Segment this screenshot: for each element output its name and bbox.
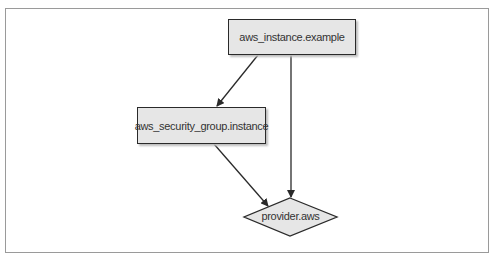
node-aws-security-group-instance: aws_security_group.instance [137, 107, 266, 144]
node-label: aws_instance.example [239, 31, 344, 43]
node-aws-instance-example: aws_instance.example [228, 19, 356, 55]
node-label: provider.aws [261, 210, 319, 222]
node-label: aws_security_group.instance [135, 120, 269, 132]
node-provider-aws: provider.aws [244, 210, 337, 222]
edge-instance-to-security-group [217, 55, 258, 106]
edge-security-group-to-provider [214, 144, 268, 206]
